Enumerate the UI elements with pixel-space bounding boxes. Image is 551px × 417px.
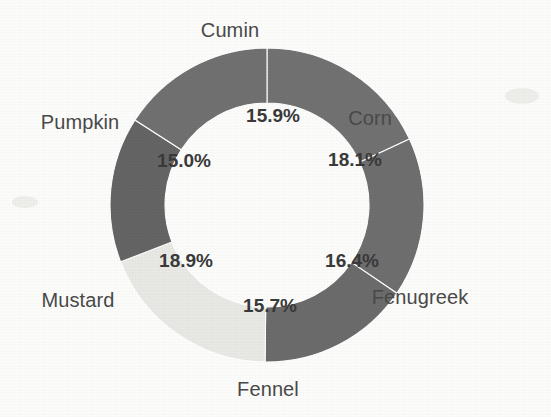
- slice-label-pumpkin: Pumpkin: [41, 111, 120, 134]
- slice-label-corn: Corn: [348, 107, 392, 130]
- slice-percent-corn: 18.1%: [328, 149, 382, 170]
- slice-percent-fenugreek: 16.4%: [325, 250, 379, 271]
- slice-percent-fennel: 15.7%: [243, 295, 297, 316]
- slice-label-cumin: Cumin: [201, 19, 259, 42]
- slice-percent-mustard: 18.9%: [159, 250, 213, 271]
- slice-label-mustard: Mustard: [42, 289, 115, 312]
- slice-label-fennel: Fennel: [237, 378, 299, 401]
- slice-label-fenugreek: Fenugreek: [372, 286, 469, 309]
- slice-percent-pumpkin: 15.0%: [157, 150, 211, 171]
- donut-chart-svg: 18.1%16.4%15.7%18.9%15.0%15.9%: [0, 0, 551, 417]
- slice-percent-cumin: 15.9%: [246, 105, 300, 126]
- donut-chart-figure: 18.1%16.4%15.7%18.9%15.0%15.9% CornFenug…: [0, 0, 551, 417]
